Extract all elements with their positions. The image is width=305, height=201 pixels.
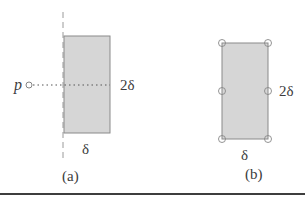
width-label-b: δ — [241, 148, 248, 163]
point-p-icon — [26, 82, 32, 88]
bottom-rule — [0, 193, 305, 195]
height-label-a: 2δ — [120, 78, 135, 93]
panel-b — [219, 40, 272, 143]
rectangle-b — [222, 43, 268, 139]
caption-a: (a) — [62, 169, 79, 184]
height-label-b: 2δ — [279, 84, 294, 99]
caption-b: (b) — [245, 167, 263, 182]
panel-a — [26, 12, 110, 160]
point-p-label: p — [14, 77, 22, 93]
width-label-a: δ — [82, 142, 89, 157]
figure: p 2δ δ (a) 2δ δ (b) — [0, 0, 305, 201]
